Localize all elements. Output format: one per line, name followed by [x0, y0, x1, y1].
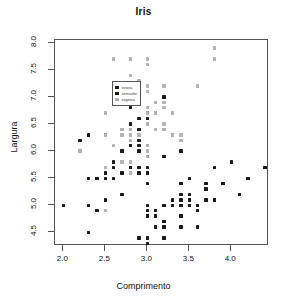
data-point [221, 182, 224, 185]
data-point [112, 144, 115, 147]
data-point [154, 101, 157, 104]
data-point [171, 204, 174, 207]
data-point [263, 166, 266, 169]
data-point [104, 177, 107, 180]
legend-swatch-icon [115, 86, 119, 90]
legend-swatch-icon [115, 98, 119, 102]
data-point [146, 84, 149, 87]
data-point [196, 225, 199, 228]
data-point [146, 209, 149, 212]
data-point [129, 106, 132, 109]
plot-area: setosaversicolorvirginica [54, 39, 268, 245]
legend: setosaversicolorvirginica [112, 81, 141, 106]
data-point [129, 57, 132, 60]
chart-title: Iris [0, 6, 287, 17]
data-point [196, 209, 199, 212]
data-point [137, 133, 140, 136]
data-point [129, 128, 132, 131]
y-axis-tick-label: 8.0 [29, 30, 38, 52]
data-point [129, 171, 132, 174]
data-point [146, 144, 149, 147]
x-axis-tick [104, 245, 105, 251]
data-point [129, 74, 132, 77]
legend-label: setosa [122, 86, 133, 90]
data-point [78, 149, 81, 152]
data-point [104, 111, 107, 114]
legend-swatch-icon [115, 92, 119, 96]
data-point [104, 166, 107, 169]
data-point [179, 225, 182, 228]
data-point [146, 111, 149, 114]
data-point [179, 182, 182, 185]
x-axis-tick-label: 2.0 [47, 254, 77, 263]
data-point [137, 128, 140, 131]
data-point [230, 160, 233, 163]
y-axis-tick-label: 7.0 [29, 84, 38, 106]
x-axis-tick [62, 245, 63, 251]
data-point [154, 128, 157, 131]
data-point [104, 171, 107, 174]
data-point [112, 166, 115, 169]
y-axis-tick-label: 6.5 [29, 112, 38, 134]
data-point [137, 139, 140, 142]
data-point [120, 149, 123, 152]
x-axis-tick-label: 4.0 [215, 254, 245, 263]
data-point [146, 57, 149, 60]
data-point [213, 198, 216, 201]
x-axis-title: Comprimento [0, 281, 287, 291]
data-point [146, 106, 149, 109]
data-point [162, 122, 165, 125]
x-axis-tick-label: 3.5 [173, 254, 203, 263]
data-point [78, 139, 81, 142]
data-point [146, 155, 149, 158]
legend-item: virginica [115, 97, 137, 102]
data-point [137, 144, 140, 147]
data-point [129, 144, 132, 147]
data-point [162, 155, 165, 158]
x-axis-tick [188, 245, 189, 251]
data-point [146, 236, 149, 239]
data-point [129, 160, 132, 163]
data-point [154, 111, 157, 114]
y-axis-tick [48, 231, 54, 232]
y-axis-tick [48, 204, 54, 205]
data-point [179, 214, 182, 217]
y-axis-tick [48, 96, 54, 97]
data-point [137, 117, 140, 120]
y-axis-tick-label: 4.5 [29, 220, 38, 242]
data-point [162, 220, 165, 223]
data-point [179, 204, 182, 207]
data-point [179, 149, 182, 152]
data-point [171, 111, 174, 114]
data-point [162, 204, 165, 207]
data-point [179, 198, 182, 201]
y-axis-tick-label: 6.0 [29, 139, 38, 161]
data-point [162, 128, 165, 131]
legend-item: setosa [115, 85, 137, 90]
y-axis-tick [48, 177, 54, 178]
data-point [137, 149, 140, 152]
data-point [95, 209, 98, 212]
data-point [162, 95, 165, 98]
data-point [146, 214, 149, 217]
legend-label: versicolor [122, 92, 137, 96]
data-point [188, 177, 191, 180]
y-axis-tick-label: 7.5 [29, 57, 38, 79]
data-point [204, 187, 207, 190]
data-point [120, 133, 123, 136]
data-point [171, 198, 174, 201]
y-axis-title: Largura [9, 97, 19, 177]
data-point [112, 160, 115, 163]
data-point [179, 133, 182, 136]
legend-item: versicolor [115, 91, 137, 96]
y-axis-tick [48, 42, 54, 43]
data-point [196, 204, 199, 207]
data-point [238, 193, 241, 196]
data-point [120, 171, 123, 174]
data-point [129, 166, 132, 169]
y-axis-tick [48, 123, 54, 124]
data-point [129, 122, 132, 125]
data-point [146, 166, 149, 169]
x-axis-tick-label: 2.5 [89, 254, 119, 263]
data-point [162, 236, 165, 239]
